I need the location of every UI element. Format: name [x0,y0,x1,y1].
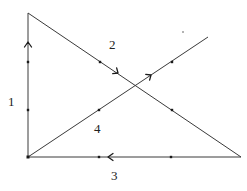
vertex-bottom-left [27,156,30,159]
edge-diagram: 1 2 3 4 [0,0,247,191]
edge-4-line [28,37,208,157]
point-edge-2-upper [99,61,101,63]
point-edge-2-lower [171,109,173,111]
edge-4-label: 4 [94,121,101,136]
point-edge-3-right [170,156,172,158]
edge-2-label: 2 [109,37,116,52]
point-edge-4-lower [98,109,100,111]
point-edge-1-lower [27,109,29,111]
edge-3-label: 3 [111,168,118,183]
edge-1-label: 1 [8,94,15,109]
point-edge-3-left [98,156,100,158]
stray-mark [182,31,184,33]
point-edge-1-upper [27,61,29,63]
point-edge-4-upper [171,61,173,63]
